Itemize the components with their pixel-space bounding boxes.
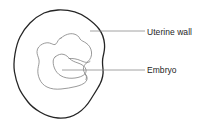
- label-embryo: Embryo: [147, 65, 177, 75]
- anatomy-diagram: [0, 0, 210, 130]
- sac-lower-fold-line: [85, 74, 87, 80]
- label-uterine-wall: Uterine wall: [147, 27, 192, 37]
- embryo-outline: [53, 54, 86, 78]
- figure-canvas: Uterine wall Embryo: [0, 0, 210, 130]
- uterine-wall-outline: [14, 10, 105, 118]
